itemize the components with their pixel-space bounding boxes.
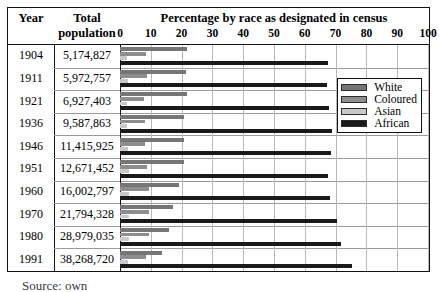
legend-item-white: White: [341, 82, 417, 93]
bar-white-1951: [120, 160, 184, 164]
bar-white-1911: [120, 70, 186, 74]
bar-white-1921: [120, 92, 187, 96]
table-header: Year Total population Percentage by race…: [8, 8, 429, 46]
bar-coloured-1946: [120, 142, 145, 146]
bar-african-1991: [120, 264, 352, 268]
header-year: Year: [8, 11, 54, 26]
gridline-60: [305, 45, 306, 271]
gridline-50: [274, 45, 275, 271]
bar-white-1960: [120, 183, 179, 187]
gridline-40: [243, 45, 244, 271]
legend-label: African: [374, 118, 409, 129]
bar-coloured-1921: [120, 97, 144, 101]
legend-label: Coloured: [374, 94, 417, 105]
row-population-label: 16,002,797: [54, 184, 120, 199]
row-population-label: 9,587,863: [54, 116, 120, 131]
bar-white-1980: [120, 228, 169, 232]
figure-root: Year Total population Percentage by race…: [0, 0, 439, 292]
x-tick-40: 40: [237, 27, 249, 39]
legend-item-coloured: Coloured: [341, 94, 417, 105]
bar-african-1946: [120, 151, 331, 155]
legend-swatch-african-icon: [341, 120, 367, 127]
gridline-20: [182, 45, 183, 271]
legend-swatch-coloured-icon: [341, 96, 367, 103]
bar-asian-1921: [120, 102, 127, 106]
x-tick-90: 90: [391, 27, 403, 39]
bar-asian-1911: [120, 79, 128, 83]
bar-white-1991: [120, 251, 162, 255]
row-year-label: 1921: [8, 94, 54, 109]
x-tick-30: 30: [207, 27, 219, 39]
row-population-label: 38,268,720: [54, 252, 120, 267]
table-frame: Year Total population Percentage by race…: [7, 7, 430, 272]
x-axis-ticks: 0102030405060708090100: [8, 27, 429, 43]
row-population-label: 28,979,035: [54, 229, 120, 244]
row-population-label: 11,415,925: [54, 139, 120, 154]
bar-african-1921: [120, 106, 329, 110]
bar-african-1980: [120, 242, 341, 246]
legend-item-asian: Asian: [341, 106, 417, 117]
bar-coloured-1904: [120, 52, 146, 56]
x-tick-70: 70: [330, 27, 342, 39]
row-year-label: 1970: [8, 207, 54, 222]
figure-caption: Source: own: [22, 278, 87, 290]
bar-asian-1960: [120, 192, 129, 196]
x-tick-0: 0: [117, 27, 123, 39]
x-tick-80: 80: [361, 27, 373, 39]
row-population-label: 5,972,757: [54, 71, 120, 86]
legend: WhiteColouredAsianAfrican: [337, 78, 422, 133]
bar-african-1951: [120, 174, 328, 178]
row-population-label: 12,671,452: [54, 161, 120, 176]
bar-white-1970: [120, 205, 173, 209]
header-chart-title: Percentage by race as designated in cens…: [120, 11, 428, 26]
gridline-10: [151, 45, 152, 271]
row-population-label: 6,927,403: [54, 94, 120, 109]
bar-coloured-1991: [120, 255, 146, 259]
bar-coloured-1970: [120, 210, 149, 214]
row-year-label: 1936: [8, 116, 54, 131]
row-year-label: 1960: [8, 184, 54, 199]
row-year-label: 1904: [8, 48, 54, 63]
bar-asian-1951: [120, 169, 129, 173]
bar-asian-1936: [120, 124, 127, 128]
bar-asian-1970: [120, 215, 129, 219]
bar-coloured-1951: [120, 165, 147, 169]
row-year-label: 1980: [8, 229, 54, 244]
header-total-line1: Total: [73, 11, 100, 25]
legend-item-african: African: [341, 118, 417, 129]
bar-coloured-1911: [120, 74, 147, 78]
x-tick-10: 10: [145, 27, 157, 39]
bar-asian-1991: [120, 260, 128, 264]
bar-african-1936: [120, 129, 332, 133]
row-population-label: 5,174,827: [54, 48, 120, 63]
x-tick-20: 20: [176, 27, 188, 39]
gridline-100: [428, 45, 429, 271]
bar-white-1936: [120, 115, 184, 119]
row-year-label: 1946: [8, 139, 54, 154]
bar-coloured-1936: [120, 120, 145, 124]
x-tick-100: 100: [419, 27, 436, 39]
bar-coloured-1960: [120, 187, 149, 191]
bar-white-1904: [120, 47, 187, 51]
x-tick-60: 60: [299, 27, 311, 39]
bar-african-1911: [120, 83, 327, 87]
x-tick-50: 50: [268, 27, 280, 39]
legend-swatch-asian-icon: [341, 108, 367, 115]
legend-label: Asian: [374, 106, 401, 117]
bar-african-1904: [120, 61, 328, 65]
bar-coloured-1980: [120, 233, 149, 237]
bar-asian-1946: [120, 147, 128, 151]
bar-asian-1904: [120, 56, 127, 60]
row-year-label: 1951: [8, 161, 54, 176]
gridline-30: [212, 45, 213, 271]
row-population-label: 21,794,328: [54, 207, 120, 222]
legend-label: White: [374, 82, 402, 93]
bar-african-1960: [120, 196, 330, 200]
row-year-label: 1991: [8, 252, 54, 267]
bar-white-1946: [120, 138, 184, 142]
bar-asian-1980: [120, 237, 129, 241]
legend-swatch-white-icon: [341, 84, 367, 91]
row-year-label: 1911: [8, 71, 54, 86]
bar-african-1970: [120, 219, 337, 223]
